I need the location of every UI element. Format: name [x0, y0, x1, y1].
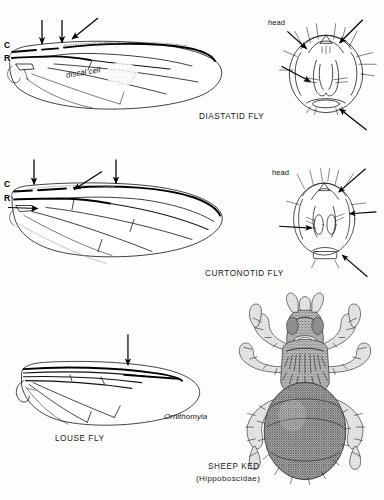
head-label-diastatid: head — [268, 18, 285, 27]
radius-label-diastatid: R — [4, 53, 10, 63]
caption-louse-fly: LOUSE FLY — [55, 434, 104, 443]
curtonotid-wing-diagram — [2, 152, 252, 270]
caption-curtonotid-fly: CURTONOTID FLY — [205, 269, 284, 278]
caption-hippoboscidae: (Hippoboscidae) — [196, 474, 260, 483]
scan-header-ghost: · · · · · · · · · · — [0, 0, 384, 11]
curtonotid-head-diagram — [272, 160, 380, 280]
diastatid-head-arrow-4 — [340, 109, 367, 130]
diastatid-arrow-3 — [72, 18, 98, 39]
caption-diastatid-fly: DIASTATID FLY — [199, 112, 264, 121]
caption-sheep-ked: SHEEP KED — [208, 462, 260, 471]
head-label-curtonotid: head — [272, 168, 289, 177]
curtonotid-head-arrow-4 — [342, 255, 367, 277]
radius-label-curtonotid: R — [4, 193, 10, 203]
diastatid-head-diagram — [268, 14, 384, 130]
diastatid-wing-diagram — [2, 12, 252, 122]
illustration-plate: · · · · · · · · · · — [0, 0, 384, 500]
diastatid-head-arrow-1 — [287, 31, 306, 48]
costa-label-curtonotid: C — [4, 179, 10, 189]
costa-label-diastatid: C — [4, 40, 10, 50]
louse-fly-wing-diagram — [8, 330, 216, 442]
diastatid-head-arrow-2 — [340, 20, 363, 43]
sheep-ked-illustration — [232, 300, 378, 486]
ornithomyia-label: Ornithomyia — [164, 412, 207, 421]
curtonotid-head-arrow-1 — [339, 169, 366, 192]
